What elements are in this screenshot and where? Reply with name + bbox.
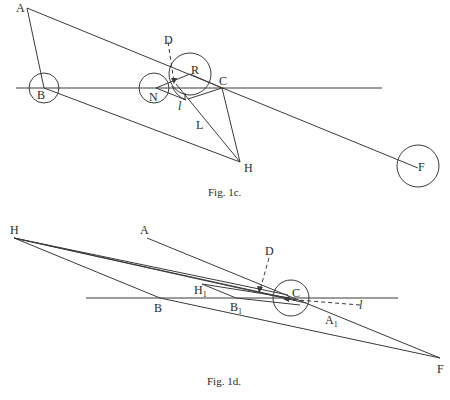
dashed-line-D-1d [260,258,269,290]
label-N: N [149,90,158,104]
figure-1c: A B D R N C l L H F Fig. 1c. [16,1,439,198]
label-l: l [178,99,182,113]
label-H-1d: H [10,223,19,237]
label-B1: B1 [230,300,242,316]
line-BH [44,88,240,162]
label-D-1d: D [265,244,274,258]
label-B-1d: B [154,301,162,315]
line-Cl [188,88,222,99]
label-A-1d: A [140,223,149,237]
label-B: B [37,88,45,102]
label-l-1d: l [359,298,363,312]
label-D: D [164,33,173,47]
label-F: F [418,160,425,174]
label-C: C [219,74,227,88]
label-C-1d: C [292,286,300,300]
label-A: A [16,1,25,15]
figure-1d: H A D H1 B B1 C l A1 F Fig. 1d. [10,223,444,387]
label-R: R [191,63,199,77]
label-H: H [244,161,253,175]
caption-fig-1d: Fig. 1d. [207,375,241,387]
label-F-1d: F [437,362,444,376]
caption-fig-1c: Fig. 1c. [208,186,242,198]
diagram-canvas: A B D R N C l L H F Fig. 1c. [0,0,450,400]
line-BF [160,298,440,358]
line-HB [14,238,160,298]
label-L: L [196,118,203,132]
